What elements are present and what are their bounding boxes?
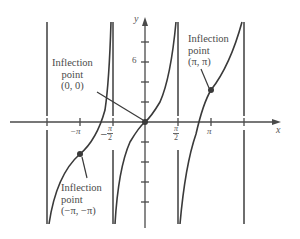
x-tick-label-half-pi: π 2 [173,125,179,142]
annotation-neg-pi: Inflection point (−π, −π) [61,182,102,217]
x-tick-label-pi: π [207,126,212,136]
x-axis-label: x [276,124,280,135]
annotation-origin: Inflection point (0, 0) [52,57,93,92]
frac-denominator: 2 [173,134,179,142]
tangent-plot [0,0,300,239]
x-tick-label-neg-pi: −π [70,126,81,136]
y-tick-label-6: 6 [132,55,137,65]
x-tick-label-neg-half-pi: π 2 [107,125,113,142]
annotation-pi: Inflection point (π, π) [188,33,229,68]
frac-denominator: 2 [107,134,113,142]
y-axis-label: y [134,13,138,24]
inflection-point-neg-pi [77,151,83,157]
